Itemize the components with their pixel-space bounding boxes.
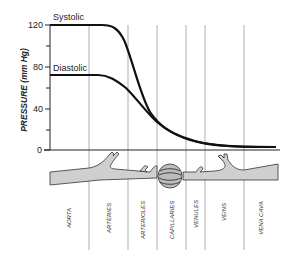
region-label-arteries: ARTERIES	[106, 203, 112, 234]
y-axis-title: PRESSURE (mm Hg)	[19, 48, 29, 132]
region-label-capillaries: CAPILLARIES	[169, 201, 175, 240]
systolic-curve	[50, 25, 276, 147]
y-axis	[44, 25, 50, 150]
region-label-venules: VENULES	[193, 200, 199, 228]
region-label-vena-cava: VENA CAVA	[258, 201, 264, 234]
region-labels: AORTA ARTERIES ARTERIOLES CAPILLARIES VE…	[66, 200, 264, 240]
y-tick-40: 40	[33, 104, 43, 114]
vein-vessel	[183, 154, 278, 180]
region-label-aorta: AORTA	[66, 208, 72, 229]
y-tick-0: 0	[37, 145, 42, 155]
diastolic-curve	[50, 75, 276, 147]
y-tick-80: 80	[33, 62, 43, 72]
arteriole-branch	[140, 166, 148, 172]
region-label-veins: VEINS	[221, 203, 227, 221]
aorta-vessel	[50, 152, 157, 185]
systolic-label: Systolic	[53, 12, 85, 22]
region-label-arterioles: ARTERIOLES	[140, 201, 146, 240]
y-tick-120: 120	[28, 20, 43, 30]
pressure-diagram: 120 80 40 0 PRESSURE (mm Hg) Systolic Di…	[0, 0, 288, 254]
diastolic-label: Diastolic	[53, 63, 88, 73]
